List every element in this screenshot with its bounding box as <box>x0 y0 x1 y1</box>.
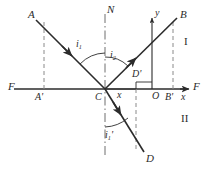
angle-arc-i2 <box>105 57 128 66</box>
label-point-B: B <box>180 9 187 20</box>
label-axis-x-right: x <box>181 92 185 102</box>
angle-arc-i1 <box>80 53 105 64</box>
label-angle-i1: i1 <box>76 39 82 50</box>
label-normal-N: N <box>107 4 114 15</box>
label-angle-i1-prime: i1' <box>105 130 113 141</box>
optics-ray-diagram-figure: A A' B B' C D D' O N y x x F F i1 i2 i1'… <box>0 0 207 176</box>
label-point-O: O <box>152 91 159 101</box>
refracted-ray-arrowhead <box>113 102 121 115</box>
label-interface-F-left: F <box>8 81 15 92</box>
diagram-canvas <box>0 0 207 176</box>
label-interface-F-right: F <box>193 81 200 92</box>
label-axis-y: y <box>155 8 159 18</box>
reflected-ray-arrowhead <box>126 58 136 68</box>
label-point-D: D <box>146 153 154 164</box>
label-point-B-prime: B' <box>165 92 173 102</box>
label-region-II: II <box>181 113 188 124</box>
label-angle-i1-prime-mark: ' <box>111 129 113 140</box>
incident-ray-arrowhead <box>62 46 72 56</box>
label-point-C: C <box>95 92 102 102</box>
label-segment-x: x <box>117 90 121 100</box>
label-point-A-prime: A' <box>35 92 43 102</box>
label-angle-i2-subscript: 2 <box>113 54 116 61</box>
label-point-A: A <box>28 9 35 20</box>
label-region-I: I <box>184 36 188 47</box>
label-angle-i1-subscript: 1 <box>79 43 82 50</box>
label-point-D-prime: D' <box>132 69 141 79</box>
label-angle-i2: i2 <box>110 50 116 61</box>
